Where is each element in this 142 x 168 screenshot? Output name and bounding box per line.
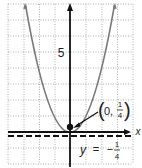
directrix-label-equals: = [93, 143, 99, 155]
x-axis-label: x [135, 126, 142, 137]
directrix-label-numerator: 1 [115, 140, 120, 149]
parabola-diagram: 5 x ( 0, 1 4 ) y = − 1 4 [0, 0, 142, 168]
directrix-label-sign: − [107, 143, 113, 155]
focus-label: ( 0, 1 4 ) [98, 99, 131, 121]
directrix-label: y = − 1 4 [79, 140, 120, 161]
directrix-label-denominator: 4 [115, 152, 120, 161]
directrix-label-var: y [79, 143, 87, 157]
focus-label-close-paren: ) [124, 99, 131, 121]
focus-label-x: 0, [104, 105, 113, 117]
focus-label-numerator: 1 [118, 100, 123, 109]
focus-label-denominator: 4 [118, 111, 123, 120]
x-axis-arrow-icon [124, 129, 131, 135]
y-axis-arrow-icon [67, 3, 73, 11]
y-tick-label-5: 5 [58, 46, 65, 60]
focus-point [67, 124, 73, 130]
